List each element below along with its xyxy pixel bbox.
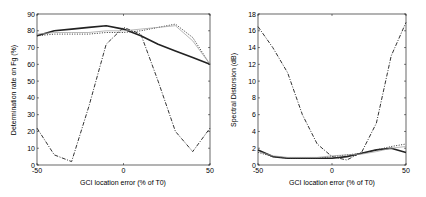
- series-dashdot: [258, 22, 406, 160]
- y-tick-label: 14: [248, 44, 256, 51]
- right-x-axis-label: GCI location error (% of T0): [289, 179, 375, 187]
- right-chart: 024681012141618-50050: [248, 11, 410, 175]
- y-tick-label: 2: [252, 145, 256, 152]
- y-tick-label: 60: [27, 61, 35, 68]
- axes-box: [37, 14, 210, 165]
- y-tick-label: 30: [27, 111, 35, 118]
- left-y-axis-label: Determination rate on Fg (%): [10, 45, 18, 135]
- series-dotted: [258, 144, 406, 158]
- figure: 0102030405060708090-50050 02468101214161…: [0, 0, 426, 197]
- right-y-axis-label: Spectral Distorsion (dB): [230, 53, 238, 127]
- left-chart: 0102030405060708090-50050: [27, 11, 214, 175]
- x-tick-label: -50: [32, 167, 42, 174]
- y-tick-label: 10: [27, 145, 35, 152]
- y-tick-label: 6: [252, 111, 256, 118]
- left-x-axis-label: GCI location error (% of T0): [80, 179, 166, 187]
- y-tick-label: 70: [27, 44, 35, 51]
- y-tick-label: 50: [27, 78, 35, 85]
- y-tick-label: 16: [248, 27, 256, 34]
- x-tick-label: 50: [206, 167, 214, 174]
- y-tick-label: 18: [248, 11, 256, 18]
- y-tick-label: 12: [248, 61, 256, 68]
- y-tick-label: 8: [252, 94, 256, 101]
- y-tick-label: 20: [27, 128, 35, 135]
- series-thin: [258, 147, 406, 158]
- series-solid: [37, 26, 210, 65]
- x-tick-label: 0: [122, 167, 126, 174]
- x-tick-label: -50: [253, 167, 263, 174]
- y-tick-label: 40: [27, 94, 35, 101]
- x-tick-label: 50: [402, 167, 410, 174]
- y-tick-label: 4: [252, 128, 256, 135]
- y-tick-label: 10: [248, 78, 256, 85]
- series-dashdot: [37, 27, 210, 161]
- x-tick-label: 0: [330, 167, 334, 174]
- y-tick-label: 80: [27, 27, 35, 34]
- y-tick-label: 90: [27, 11, 35, 18]
- series-thin: [37, 26, 210, 65]
